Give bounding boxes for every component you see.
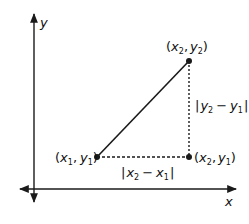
label-vertical-distance: |y2−y1| [195,98,248,115]
label-point-x2-y1: (x2,y1) [194,150,236,167]
x-axis-label: x [224,194,233,209]
label-point-x2-y2: (x2,y2) [166,39,208,56]
y-axis-label: y [39,15,48,30]
label-point-x1-y1: (x1,y1) [55,150,98,167]
hypotenuse-segment [97,61,189,157]
point-x2-y2 [186,58,192,64]
point-x2-y1 [186,154,192,160]
label-horizontal-distance: |x2−x1| [121,165,174,182]
coordinate-diagram: y x (x1,y1) (x2,y2) (x2,y1) |x2−x1| |y2−… [0,0,249,224]
